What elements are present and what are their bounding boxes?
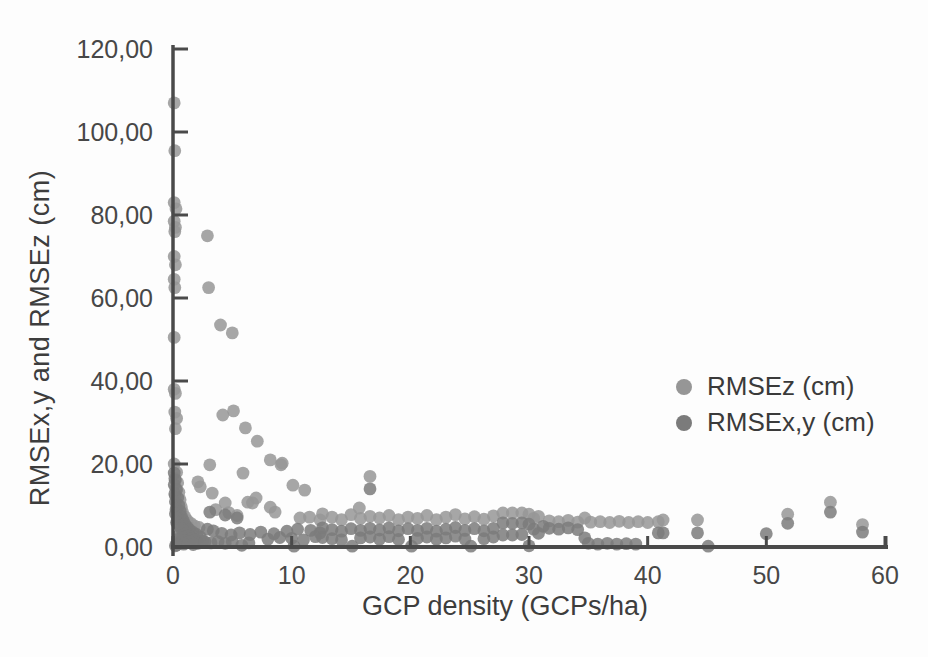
- x-tick-label: 30: [515, 561, 543, 589]
- x-tick-label: 60: [871, 561, 899, 589]
- y-axis-title: RMSEx,y and RMSEz (cm): [25, 170, 56, 507]
- x-tick-label: 20: [396, 561, 424, 589]
- data-point-rmsez: [364, 470, 377, 483]
- plot-area: 0,0020,0040,0060,0080,00100,00120,000102…: [0, 0, 928, 657]
- data-point-rmsexy: [392, 533, 405, 546]
- data-point-rmsexy: [781, 517, 794, 530]
- data-point-rmsez: [269, 506, 282, 519]
- data-point-rmsez: [298, 484, 311, 497]
- data-point-rmsez: [226, 327, 239, 340]
- data-point-rmsez: [194, 480, 207, 493]
- y-tick-label: 80,00: [90, 201, 153, 229]
- data-point-rmsexy: [335, 534, 348, 547]
- scatter-figure: 0,0020,0040,0060,0080,00100,00120,000102…: [0, 0, 928, 657]
- data-point-rmsez: [237, 467, 250, 480]
- data-point-rmsez: [214, 319, 227, 332]
- legend-item-rmsez: RMSEz (cm): [676, 372, 875, 401]
- data-point-rmsexy: [268, 527, 281, 540]
- data-point-rmsez: [203, 458, 216, 471]
- data-point-rmsez: [275, 458, 288, 471]
- data-point-rmsexy: [231, 512, 244, 525]
- data-point-rmsez: [168, 144, 181, 157]
- data-point-rmsez: [287, 479, 300, 492]
- data-point-rmsez: [239, 422, 252, 435]
- data-point-rmsez: [691, 514, 704, 527]
- data-point-rmsexy: [219, 509, 232, 522]
- data-point-rmsez: [169, 258, 182, 271]
- legend-label-rmsexy: RMSEx,y (cm): [707, 407, 875, 438]
- data-point-rmsexy: [657, 527, 670, 540]
- data-point-rmsexy: [856, 526, 869, 539]
- data-point-rmsexy: [291, 523, 304, 536]
- data-point-rmsexy: [203, 506, 216, 519]
- data-point-rmsez: [250, 492, 263, 505]
- y-tick-label: 0,00: [104, 533, 153, 561]
- data-point-rmsexy: [254, 526, 267, 539]
- x-tick-label: 40: [634, 561, 662, 589]
- data-point-rmsez: [206, 487, 219, 500]
- data-point-rmsez: [168, 225, 181, 238]
- legend: RMSEz (cm) RMSEx,y (cm): [676, 372, 875, 437]
- x-tick-label: 10: [278, 561, 306, 589]
- legend-label-rmsez: RMSEz (cm): [707, 371, 854, 402]
- x-tick-label: 0: [166, 561, 180, 589]
- y-tick-label: 100,00: [77, 118, 153, 146]
- y-tick-label: 120,00: [77, 35, 153, 63]
- data-point-rmsez: [251, 435, 264, 448]
- data-point-rmsexy: [244, 528, 257, 541]
- data-point-rmsez: [168, 281, 181, 294]
- data-point-rmsez: [202, 281, 215, 294]
- data-point-rmsez: [169, 422, 182, 435]
- data-point-rmsez: [201, 229, 214, 242]
- x-axis-title: GCP density (GCPs/ha): [362, 591, 648, 622]
- rmsez-marker-icon: [676, 379, 692, 395]
- legend-item-rmsexy: RMSEx,y (cm): [676, 408, 875, 437]
- data-point-rmsexy: [824, 506, 837, 519]
- data-point-rmsexy: [691, 527, 704, 540]
- data-point-rmsez: [657, 514, 670, 527]
- y-tick-label: 40,00: [90, 367, 153, 395]
- data-point-rmsexy: [364, 483, 377, 496]
- y-tick-label: 60,00: [90, 284, 153, 312]
- data-point-rmsez: [169, 387, 182, 400]
- data-point-rmsez: [227, 405, 240, 418]
- data-point-rmsexy: [281, 525, 294, 538]
- rmsexy-marker-icon: [676, 415, 692, 431]
- x-tick-label: 50: [752, 561, 780, 589]
- y-tick-label: 20,00: [90, 450, 153, 478]
